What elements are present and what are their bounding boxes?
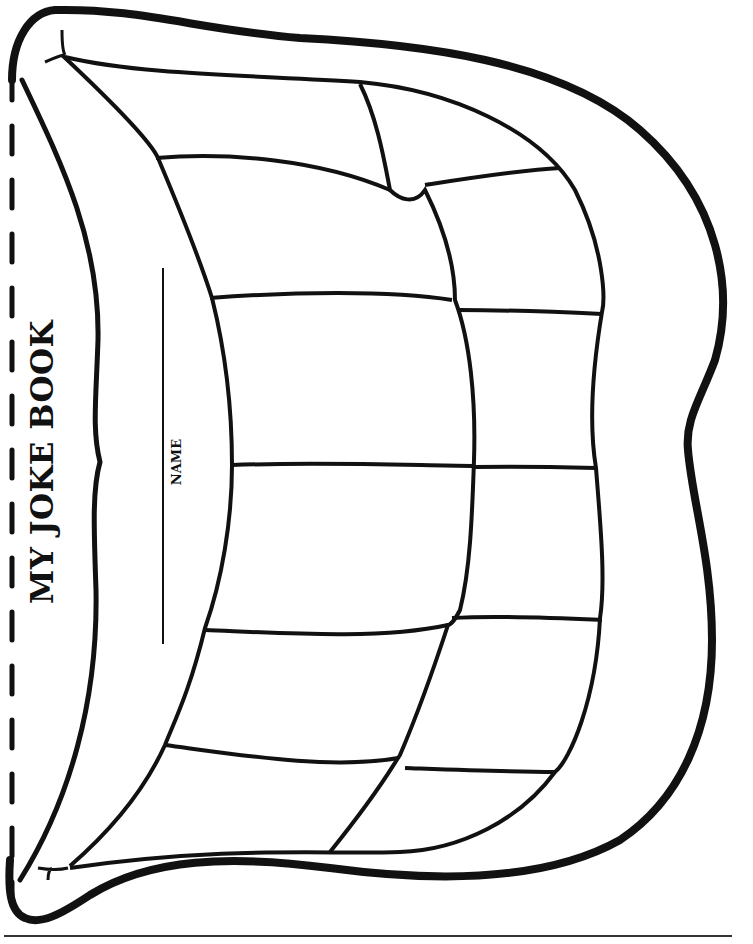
teeth-middle-divider	[330, 84, 474, 852]
book-title: MY JOKE BOOK	[24, 320, 60, 604]
name-write-line[interactable]	[162, 268, 164, 644]
bottom-rule	[4, 935, 732, 937]
bottom-tip-flourish	[38, 868, 68, 880]
outer-tooth-separators	[156, 156, 472, 762]
name-label: NAME	[169, 439, 184, 485]
mouth-drawing	[0, 0, 753, 944]
worksheet-page: MY JOKE BOOK NAME	[0, 0, 753, 944]
inner-tooth-separators	[405, 168, 602, 772]
teeth-left-edge	[62, 55, 232, 866]
